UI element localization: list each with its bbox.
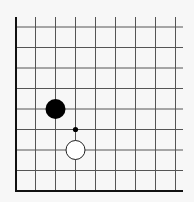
white-stone	[66, 141, 85, 160]
board-edges	[15, 17, 183, 192]
move-marker-dot	[73, 127, 78, 132]
grid-lines	[15, 17, 183, 191]
go-board	[0, 0, 194, 202]
black-stone	[46, 99, 66, 119]
